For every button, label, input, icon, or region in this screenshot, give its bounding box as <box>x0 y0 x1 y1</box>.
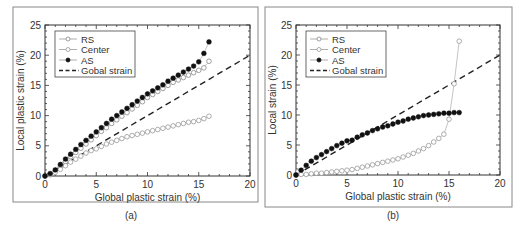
y-axis-label: Local strain (%) <box>267 65 278 134</box>
x-tick-label: 0 <box>42 179 48 190</box>
x-axis-label: Global plastic strain (%) <box>95 192 201 203</box>
y-tick-label: 10 <box>281 110 293 121</box>
legend-label: RS <box>81 34 94 45</box>
y-tick-label: 5 <box>35 140 41 151</box>
legend: RSCenterASGobal strain <box>306 31 386 77</box>
y-tick-label: 25 <box>281 20 293 31</box>
legend-label: RS <box>332 34 345 45</box>
y-tick-label: 15 <box>30 80 42 91</box>
y-tick-label: 20 <box>281 50 293 61</box>
chart-panel-a: 051015200510152025Global plastic strain … <box>0 0 262 240</box>
x-axis-label: Global plastic strain (%) <box>345 191 451 202</box>
x-tick-label: 0 <box>293 178 299 189</box>
legend-label: Gobal strain <box>332 65 383 76</box>
y-tick-label: 10 <box>30 110 42 121</box>
y-tick-label: 0 <box>35 171 41 182</box>
y-axis-label: Local plastic strain (%) <box>15 50 26 151</box>
series-as <box>294 110 462 177</box>
y-tick-label: 25 <box>30 20 42 31</box>
legend-label: Center <box>332 44 361 55</box>
x-tick-label: 15 <box>193 179 205 190</box>
x-tick-label: 5 <box>93 179 99 190</box>
chart-panel-b: 051015200510152025Global plastic strain … <box>262 0 524 240</box>
caption-a: (a) <box>0 210 262 221</box>
y-tick-label: 20 <box>30 50 42 61</box>
y-tick-label: 15 <box>281 80 293 91</box>
chart-b-svg: 051015200510152025Global plastic strain … <box>262 0 524 240</box>
series-center <box>43 114 212 178</box>
y-tick-label: 5 <box>286 140 292 151</box>
x-tick-label: 15 <box>443 178 455 189</box>
figure-frame <box>265 7 512 207</box>
x-tick-label: 10 <box>392 178 404 189</box>
legend-label: AS <box>332 55 345 66</box>
y-tick-label: 0 <box>286 170 292 181</box>
x-tick-label: 20 <box>244 179 256 190</box>
legend: RSCenterASGobal strain <box>55 31 135 77</box>
chart-a-svg: 051015200510152025Global plastic strain … <box>0 0 262 240</box>
x-tick-label: 10 <box>142 179 154 190</box>
legend-label: Gobal strain <box>81 65 132 76</box>
legend-label: Center <box>81 44 110 55</box>
legend-label: AS <box>81 55 94 66</box>
caption-b: (b) <box>262 210 524 221</box>
x-tick-label: 20 <box>494 178 506 189</box>
x-tick-label: 5 <box>344 178 350 189</box>
